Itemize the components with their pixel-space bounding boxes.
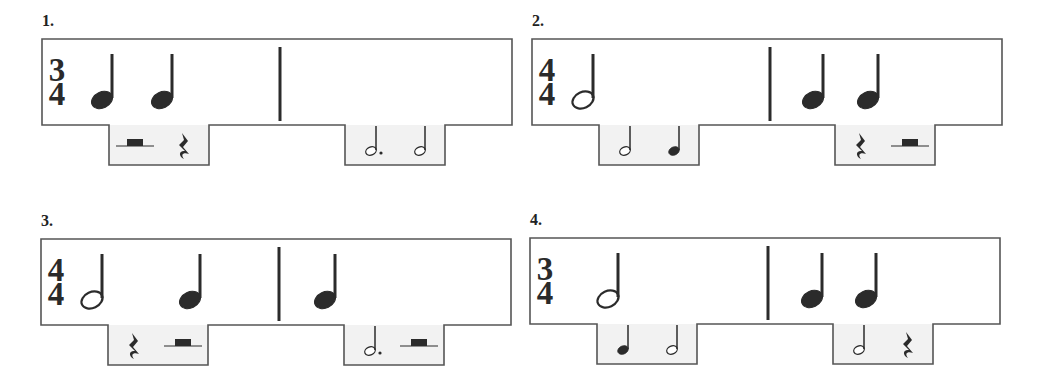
- answer-option-half-note[interactable]: [605, 121, 645, 157]
- answer-option-half-note[interactable]: [652, 320, 692, 356]
- answer-option-half-rest[interactable]: [163, 321, 203, 357]
- time-signature: 3 4: [49, 52, 66, 112]
- answer-option-quarter-rest[interactable]: [888, 320, 928, 358]
- answer-option-half-rest[interactable]: [399, 321, 439, 357]
- quarter-note-icon: [853, 253, 880, 311]
- answer-option-half-note[interactable]: [839, 320, 879, 356]
- svg-text:4: 4: [48, 276, 65, 312]
- time-signature: 3 4: [537, 251, 554, 311]
- time-signature: 4 4: [539, 52, 556, 112]
- staff-box: 4 4: [39, 237, 515, 371]
- answer-option-quarter-note[interactable]: [603, 320, 643, 356]
- half-note-icon: [570, 54, 597, 112]
- quarter-note-icon: [149, 54, 176, 112]
- answer-option-half-rest[interactable]: [115, 121, 155, 157]
- answer-option-quarter-note[interactable]: [654, 121, 694, 157]
- answer-option-dotted-half-note[interactable]: [351, 121, 391, 157]
- svg-text:4: 4: [539, 76, 556, 112]
- exercise-2: 2. 4 4: [532, 39, 1012, 209]
- staff-box: 4 4: [530, 37, 1006, 171]
- exercise-number: 4.: [530, 211, 542, 229]
- answer-option-dotted-half-note[interactable]: [350, 321, 390, 357]
- exercise-number: 3.: [41, 212, 53, 230]
- quarter-note-icon: [89, 54, 116, 112]
- answer-option-quarter-rest[interactable]: [841, 121, 881, 159]
- exercise-4: 4. 3 4: [530, 238, 1010, 387]
- quarter-note-icon: [312, 254, 339, 312]
- answer-option-half-note[interactable]: [400, 121, 440, 157]
- half-note-icon: [595, 253, 622, 311]
- exercise-number: 2.: [532, 12, 544, 30]
- quarter-note-icon: [800, 54, 827, 112]
- svg-text:4: 4: [537, 275, 554, 311]
- exercise-1: 1. 3 4: [42, 39, 522, 209]
- exercise-number: 1.: [42, 12, 54, 30]
- quarter-note-icon: [855, 54, 882, 112]
- svg-text:4: 4: [49, 76, 66, 112]
- staff-box: 3 4: [40, 37, 516, 171]
- answer-option-quarter-rest[interactable]: [114, 321, 154, 359]
- quarter-note-icon: [177, 254, 204, 312]
- half-note-icon: [79, 254, 106, 312]
- exercise-3: 3. 4 4: [41, 239, 521, 387]
- answer-option-quarter-rest[interactable]: [164, 121, 204, 159]
- quarter-note-icon: [799, 253, 826, 311]
- time-signature: 4 4: [48, 252, 65, 312]
- answer-option-half-rest[interactable]: [890, 121, 930, 157]
- staff-box: 3 4: [528, 236, 1004, 370]
